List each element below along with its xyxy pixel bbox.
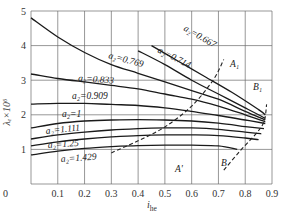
point-B-label: B: [221, 158, 227, 168]
boundary-line-a-a1: [111, 59, 224, 152]
chart-canvas: 12345 0.10.20.30.40.50.60.70.80.90 a₂=0.…: [0, 0, 286, 217]
y-axis-ticks: 12345: [21, 6, 26, 155]
series-label: a₂=0.714: [156, 45, 193, 70]
x-tick-label: 0.6: [185, 188, 198, 199]
x-tick-label: 0.5: [159, 188, 172, 199]
x-tick-label: 0.2: [78, 188, 91, 199]
x-tick-label: 0.9: [266, 188, 279, 199]
x-axis-label: ihe: [147, 199, 158, 213]
origin-label: 0: [3, 188, 8, 199]
y-axis-label: λₑ×10⁶: [1, 98, 12, 127]
x-axis-label-sub: he: [150, 204, 158, 213]
y-tick-label: 2: [21, 109, 26, 120]
series-label: a₂=0.833: [78, 73, 115, 85]
x-tick-label: 0.8: [239, 188, 252, 199]
y-tick-label: 5: [21, 6, 26, 17]
point-A-prime-label: A': [174, 164, 184, 174]
series-label: a₂=0.769: [107, 50, 144, 69]
y-tick-label: 4: [21, 40, 26, 51]
series-label: a₂=0.667: [182, 23, 219, 50]
series-label: a₂=1: [62, 109, 81, 119]
y-tick-label: 3: [21, 75, 26, 86]
series-label: a₂=1.25: [47, 138, 79, 150]
x-tick-label: 0.4: [132, 188, 145, 199]
series-label: a₂=1.429: [60, 152, 97, 164]
point-A1-label: A₁: [229, 59, 239, 69]
x-tick-label: 0.7: [212, 188, 225, 199]
x-axis-ticks: 0.10.20.30.40.50.60.70.80.90: [3, 188, 278, 199]
series-line-a2-0-714: [138, 51, 265, 119]
series-curves: [31, 18, 265, 155]
point-B1-label: B₁: [253, 82, 262, 92]
x-tick-label: 0.1: [52, 188, 65, 199]
series-label: a₂=0.909: [72, 91, 108, 101]
series-labels: a₂=0.667a₂=0.714a₂=0.769a₂=0.833a₂=0.909…: [45, 23, 219, 164]
y-tick-label: 1: [21, 144, 26, 155]
x-tick-label: 0.3: [105, 188, 118, 199]
